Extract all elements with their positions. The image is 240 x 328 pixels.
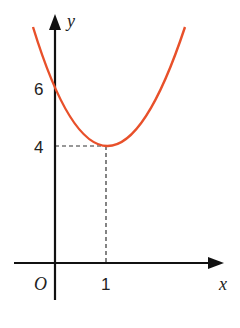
y-axis-label: y xyxy=(65,11,75,31)
x-tick-1: 1 xyxy=(101,275,110,294)
parabola-chart: y x O 1 6 4 xyxy=(0,0,240,328)
origin-label: O xyxy=(34,274,47,294)
x-axis-label: x xyxy=(218,274,227,294)
y-axis-arrow-icon xyxy=(49,14,61,30)
y-tick-4: 4 xyxy=(34,138,43,157)
y-tick-6: 6 xyxy=(34,80,43,99)
x-axis-arrow-icon xyxy=(208,257,224,269)
